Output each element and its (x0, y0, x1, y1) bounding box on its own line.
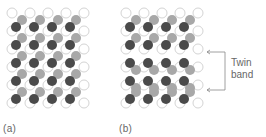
open-atom (193, 26, 203, 36)
dark-atom (65, 94, 75, 104)
dark-atom (143, 58, 153, 68)
dark-atom (47, 58, 57, 68)
open-atom (79, 44, 89, 54)
dark-atom (179, 76, 189, 86)
dark-atom (161, 58, 171, 68)
dark-atom (47, 40, 57, 50)
open-atom (43, 8, 53, 18)
crystal-diagram (0, 0, 266, 137)
dark-atom (11, 40, 21, 50)
dark-atom (11, 58, 21, 68)
dark-atom (47, 76, 57, 86)
open-atom (193, 8, 203, 18)
dark-atom (179, 22, 189, 32)
dark-atom (143, 40, 153, 50)
dark-atom (161, 40, 171, 50)
dark-atom (47, 22, 57, 32)
open-atom (61, 8, 71, 18)
open-atom (79, 26, 89, 36)
dark-atom (11, 76, 21, 86)
panel-b-label: (b) (119, 123, 132, 134)
open-atom (25, 8, 35, 18)
open-atom (79, 98, 89, 108)
dark-atom (65, 40, 75, 50)
dark-atom (125, 22, 135, 32)
open-atom (79, 62, 89, 72)
dark-atom (11, 22, 21, 32)
open-atom (193, 44, 203, 54)
dark-atom (161, 94, 171, 104)
dark-atom (29, 76, 39, 86)
dark-atom (161, 22, 171, 32)
open-atom (7, 8, 17, 18)
dark-atom (179, 58, 189, 68)
dark-atom (143, 94, 153, 104)
twin-band-label-line2: band (231, 69, 253, 81)
dark-atom (29, 94, 39, 104)
open-atom (175, 8, 185, 18)
dark-atom (125, 58, 135, 68)
dark-atom (47, 94, 57, 104)
dark-atom (11, 94, 21, 104)
dark-atom (179, 40, 189, 50)
dark-atom (125, 40, 135, 50)
dark-atom (161, 76, 171, 86)
panel-a-label: (a) (3, 123, 16, 134)
open-atom (79, 8, 89, 18)
dark-atom (125, 76, 135, 86)
dark-atom (65, 58, 75, 68)
open-atom (121, 8, 131, 18)
dark-atom (29, 40, 39, 50)
dark-atom (143, 22, 153, 32)
open-atom (139, 8, 149, 18)
dark-atom (29, 22, 39, 32)
open-atom (79, 80, 89, 90)
dark-atom (179, 94, 189, 104)
dark-atom (29, 58, 39, 68)
open-atom (193, 98, 203, 108)
dark-atom (65, 76, 75, 86)
dark-atom (125, 94, 135, 104)
open-atom (157, 8, 167, 18)
dark-atom (143, 76, 153, 86)
twin-band-label: Twin band (231, 57, 253, 81)
dark-atom (65, 22, 75, 32)
twin-band-label-line1: Twin (231, 57, 253, 69)
